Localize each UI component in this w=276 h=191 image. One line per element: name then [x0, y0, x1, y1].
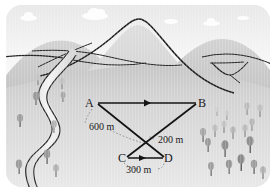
figure-canvas: A B C D 600 m 200 m 300 m: [0, 0, 276, 191]
arrowhead-AB: [144, 100, 151, 107]
leader-600-to-X: [110, 130, 146, 144]
arrowhead-CD: [139, 155, 146, 161]
distance-label-200m: 200 m: [158, 135, 183, 145]
point-label-B: B: [198, 97, 206, 109]
distance-label-300m: 300 m: [126, 165, 151, 175]
segment-CB: [127, 104, 196, 157]
vector-diagram-layer: [6, 5, 270, 187]
point-label-C: C: [118, 152, 126, 164]
distance-label-600m: 600 m: [89, 122, 114, 132]
landscape-card: A B C D 600 m 200 m 300 m: [6, 5, 270, 187]
point-label-A: A: [85, 97, 94, 109]
point-label-D: D: [164, 152, 173, 164]
